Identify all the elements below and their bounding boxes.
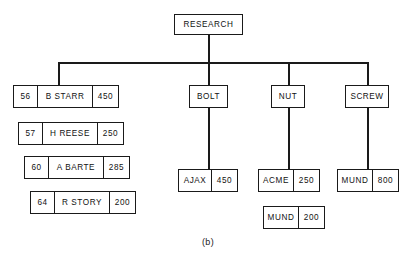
connector-drop-screw	[367, 62, 369, 85]
supplier-amount: 200	[298, 207, 324, 228]
employee-name: A BARTE	[48, 157, 103, 178]
employee-name: H REESE	[42, 123, 97, 144]
record-supplier-nut-1[interactable]: MUND 200	[263, 206, 325, 229]
record-supplier-bolt-0[interactable]: AJAX 450	[178, 169, 238, 192]
connector-main-bus	[58, 62, 369, 64]
employee-amount: 250	[97, 123, 123, 144]
hierarchical-database-tree-figure: RESEARCH 56 B STARR 450 57 H REESE 250 6…	[0, 0, 416, 265]
employee-amount: 200	[109, 192, 135, 213]
part-label: BOLT	[190, 86, 227, 107]
record-employee-0[interactable]: 56 B STARR 450	[13, 85, 119, 108]
connector-root-stem	[208, 35, 210, 63]
supplier-name: AJAX	[179, 170, 211, 191]
node-part-screw[interactable]: SCREW	[345, 85, 389, 108]
supplier-name: ACME	[259, 170, 293, 191]
record-supplier-screw-0[interactable]: MUND 800	[337, 169, 399, 192]
figure-caption: (b)	[0, 237, 416, 247]
supplier-amount: 450	[211, 170, 237, 191]
node-research-label: RESEARCH	[175, 15, 242, 34]
employee-name: R STORY	[54, 192, 109, 213]
node-research-root[interactable]: RESEARCH	[174, 14, 243, 35]
connector-screw-to-mund	[367, 108, 369, 169]
record-employee-3[interactable]: 64 R STORY 200	[30, 191, 136, 214]
supplier-amount: 800	[372, 170, 398, 191]
node-part-bolt[interactable]: BOLT	[189, 85, 228, 108]
employee-amount: 285	[103, 157, 129, 178]
connector-bolt-to-ajax	[208, 108, 210, 169]
part-label: NUT	[272, 86, 304, 107]
employee-id: 64	[31, 192, 54, 213]
employee-id: 56	[14, 86, 37, 107]
record-employee-1[interactable]: 57 H REESE 250	[18, 122, 124, 145]
record-supplier-nut-0[interactable]: ACME 250	[258, 169, 320, 192]
employee-id: 57	[19, 123, 42, 144]
connector-drop-employees	[58, 62, 60, 85]
connector-drop-bolt	[208, 62, 210, 85]
supplier-name: MUND	[264, 207, 298, 228]
supplier-name: MUND	[338, 170, 372, 191]
node-part-nut[interactable]: NUT	[271, 85, 305, 108]
employee-amount: 450	[92, 86, 118, 107]
record-employee-2[interactable]: 60 A BARTE 285	[24, 156, 130, 179]
connector-drop-nut	[288, 62, 290, 85]
employee-id: 60	[25, 157, 48, 178]
connector-nut-to-acme	[288, 108, 290, 169]
employee-name: B STARR	[37, 86, 92, 107]
part-label: SCREW	[346, 86, 388, 107]
supplier-amount: 250	[293, 170, 319, 191]
